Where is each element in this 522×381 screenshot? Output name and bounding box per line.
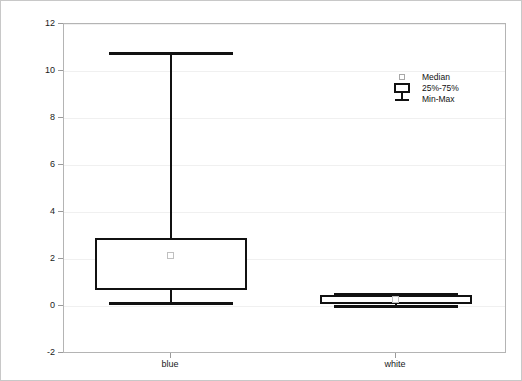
legend-median-icon: [399, 74, 405, 80]
y-tick-label: 8: [15, 113, 55, 122]
gridline: [64, 118, 505, 119]
x-tick-label-white: white: [355, 359, 435, 369]
iqr-box: [95, 238, 247, 290]
boxplot-figure: DPPH [EQA mg/mL] 12 10 8 6 4 2 0 -2 blue…: [0, 0, 522, 381]
y-tick-label: 12: [15, 19, 55, 28]
legend-label-iqr: 25%-75%: [422, 83, 459, 93]
legend-iqr-icon: [394, 83, 410, 93]
legend-label-range: Min-Max: [422, 94, 455, 104]
legend-range-cap-icon: [395, 99, 409, 101]
y-tick-label: 4: [15, 207, 55, 216]
gridline: [64, 212, 505, 213]
y-tick-label: -2: [15, 348, 55, 357]
whisker-cap-min: [109, 302, 233, 305]
gridline: [64, 24, 505, 25]
legend-label-median: Median: [422, 72, 450, 82]
legend: Median 25%-75% Min-Max: [396, 72, 491, 108]
y-tick-label: 10: [15, 66, 55, 75]
y-tick-label: 0: [15, 301, 55, 310]
whisker-cap-min: [334, 305, 458, 308]
x-tick-label-blue: blue: [130, 359, 210, 369]
whisker-cap-max: [109, 52, 233, 55]
y-tick-label: 2: [15, 254, 55, 263]
median-marker: [167, 252, 174, 259]
x-tick-mark: [170, 353, 171, 358]
median-marker: [392, 296, 399, 303]
gridline: [64, 165, 505, 166]
plot-area: Median 25%-75% Min-Max: [63, 23, 506, 353]
x-tick-mark: [395, 353, 396, 358]
y-tick-label: 6: [15, 160, 55, 169]
